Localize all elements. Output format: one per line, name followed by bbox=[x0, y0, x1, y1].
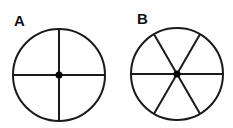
figure-a-label: A bbox=[14, 12, 25, 29]
division-line bbox=[154, 74, 177, 114]
division-line bbox=[177, 34, 200, 74]
division-line bbox=[177, 74, 200, 114]
division-line bbox=[154, 34, 177, 74]
diagram-canvas: A B bbox=[0, 0, 233, 128]
figure-a: A bbox=[13, 12, 105, 121]
figure-b-center-dot bbox=[174, 71, 181, 78]
figure-b: B bbox=[131, 10, 223, 120]
figure-b-label: B bbox=[137, 10, 148, 27]
figure-a-center-dot bbox=[56, 72, 63, 79]
